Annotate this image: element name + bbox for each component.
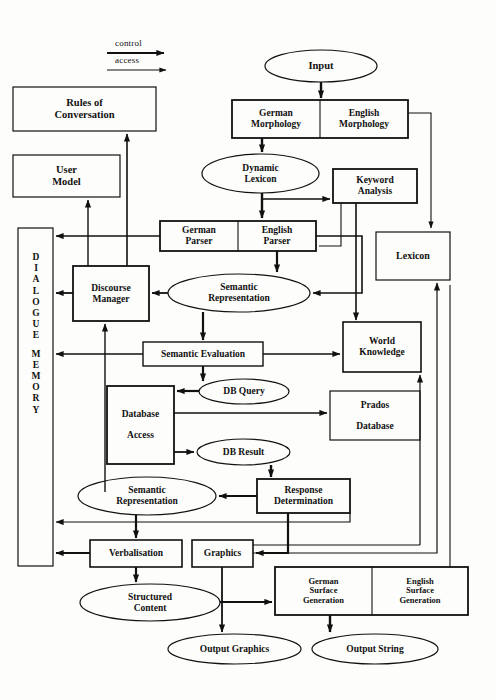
dialogue-memory-letter: E <box>33 360 39 371</box>
dialogue-memory-letter: M <box>32 349 41 360</box>
edge-group <box>13 50 468 664</box>
shape-discourse-manager <box>73 266 149 321</box>
edge-dynamic-lexicon-to-keyword-analysis <box>262 193 330 199</box>
shape-semantic-representation-1 <box>168 274 310 312</box>
shape-structured-content <box>80 584 220 621</box>
shape-output-string <box>312 634 438 664</box>
shape-db-result <box>197 439 290 465</box>
shape-input <box>265 50 377 82</box>
dialogue-memory-letter: D <box>33 252 40 263</box>
shape-semantic-representation-2 <box>78 477 216 515</box>
diagram-canvas: control access DIALOGUEMEMORY Rules of C… <box>0 0 495 700</box>
dialogue-memory-letter: Y <box>33 405 40 416</box>
shape-semantic-evaluation <box>143 342 263 366</box>
dialogue-memory-label: DIALOGUEMEMORY <box>24 252 48 416</box>
shape-database-access <box>107 386 174 464</box>
legend-access-label: access <box>115 55 139 65</box>
dialogue-memory-letter: E <box>33 330 39 341</box>
dialogue-memory-letter: I <box>34 263 38 274</box>
shape-graphics <box>192 540 253 567</box>
dialogue-memory-letter: U <box>33 319 40 330</box>
shape-response-determination <box>257 479 350 513</box>
edge-keyword-analysis-branch <box>319 203 341 246</box>
shape-rules-of-conversation <box>13 87 156 131</box>
dialogue-memory-letter: L <box>33 286 39 297</box>
edge-response-determination-to-dialogue-memory <box>56 513 350 522</box>
shape-user-model <box>13 155 120 197</box>
legend-control-label: control <box>115 38 142 48</box>
shape-output-graphics <box>168 634 301 664</box>
dialogue-memory-letter: R <box>33 393 40 404</box>
edge-parser-to-semantic-representation <box>313 236 362 293</box>
dialogue-memory-letter: O <box>32 297 39 308</box>
edge-response-determination-to-graphics <box>256 513 288 553</box>
shape-keyword-analysis <box>333 169 417 203</box>
shape-dynamic-lexicon <box>202 154 319 193</box>
dialogue-memory-letter: M <box>32 371 41 382</box>
diagram-edges-layer <box>0 0 495 700</box>
shape-prados-database <box>330 391 420 440</box>
dialogue-memory-letter: G <box>32 308 39 319</box>
dialogue-memory-letter: A <box>33 274 40 285</box>
shape-world-knowledge <box>343 322 421 372</box>
dialogue-memory-letter: O <box>32 382 39 393</box>
shape-verbalisation <box>90 540 182 567</box>
shape-db-query <box>199 379 289 404</box>
shape-lexicon <box>376 232 450 280</box>
edge-english-morphology-to-lexicon <box>408 113 431 228</box>
